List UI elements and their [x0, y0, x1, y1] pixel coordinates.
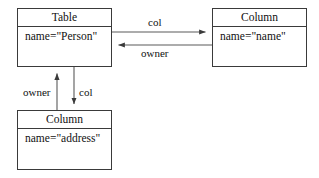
- uml-node-title: Column: [18, 111, 111, 129]
- edge-label-owner-column-address-to-table: owner: [23, 86, 51, 98]
- uml-node-attributes: name="name": [213, 27, 306, 66]
- uml-node-column-name[interactable]: Column name="name": [212, 8, 307, 67]
- uml-node-attributes: name="address": [18, 129, 111, 169]
- uml-node-attributes: name="Person": [18, 27, 111, 66]
- edge-label-owner-column-name-to-table: owner: [141, 47, 169, 59]
- uml-attribute: name="name": [220, 29, 306, 44]
- uml-node-title: Table: [18, 9, 111, 27]
- edge-label-col-table-to-column-address: col: [79, 86, 92, 98]
- uml-node-column-address[interactable]: Column name="address": [17, 110, 112, 170]
- uml-attribute: name="Person": [25, 29, 111, 44]
- uml-attribute: name="address": [25, 131, 111, 146]
- uml-node-table-person[interactable]: Table name="Person": [17, 8, 112, 67]
- uml-diagram-canvas: Table name="Person" Column name="name" C…: [0, 0, 319, 178]
- uml-node-title: Column: [213, 9, 306, 27]
- edge-label-col-table-to-column-name: col: [148, 16, 161, 28]
